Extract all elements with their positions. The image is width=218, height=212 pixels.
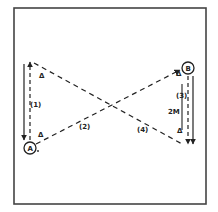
cone-bottom-left-icon: Δ (38, 131, 44, 139)
cone-top-left-icon: Δ (39, 72, 45, 80)
player-a-label: A (28, 145, 34, 153)
path-2-label: (2) (79, 123, 90, 131)
path-3-label: (3) (176, 92, 187, 100)
path-2-dashed-arrow (36, 70, 180, 144)
distance-label: 2M (168, 108, 180, 116)
player-a-dot (37, 150, 39, 152)
drill-diagram: Δ Δ Δ Δ A B (1) (2) (3) (4) 2M (0, 0, 218, 212)
cone-bottom-right-icon: Δ (177, 127, 183, 135)
cone-top-right-icon: Δ (176, 70, 182, 78)
path-4-dashed-line (34, 63, 184, 145)
path-4-label: (4) (137, 126, 148, 134)
player-b-label: B (186, 65, 191, 73)
path-1-label: (1) (30, 101, 41, 109)
